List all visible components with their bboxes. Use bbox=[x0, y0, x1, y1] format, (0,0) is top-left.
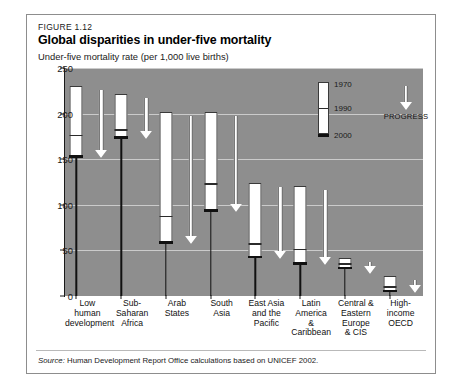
progress-label: PROGRESS bbox=[378, 112, 434, 121]
progress-arrow-shaft bbox=[278, 187, 282, 251]
progress-arrow-icon bbox=[184, 116, 198, 244]
marker-2000 bbox=[248, 256, 262, 259]
source-label: Source: bbox=[38, 356, 65, 365]
marker-1990 bbox=[338, 263, 351, 265]
figure-number: FIGURE 1.12 bbox=[38, 22, 92, 32]
range-bar-1970-2000 bbox=[383, 276, 396, 291]
x-tick-mark bbox=[76, 295, 77, 299]
bar-group bbox=[110, 68, 155, 296]
x-category-label: Central &EasternEurope& CIS bbox=[334, 299, 379, 338]
progress-arrow-icon bbox=[139, 98, 153, 140]
y-tick-mark-200 bbox=[60, 113, 65, 114]
marker-2000 bbox=[293, 262, 307, 265]
figure-card: FIGURE 1.12 Global disparities in under-… bbox=[26, 14, 436, 374]
range-bar-1970-2000 bbox=[204, 112, 217, 210]
marker-1990 bbox=[294, 249, 307, 251]
y-tick-label-100: 100 bbox=[33, 199, 73, 210]
x-tick-mark bbox=[344, 295, 345, 299]
x-category-label: Lowhumandevelopment bbox=[65, 299, 110, 328]
progress-arrow-head bbox=[319, 257, 331, 265]
x-category-label: East Asiaand thePacific bbox=[244, 299, 289, 328]
x-tick-mark bbox=[300, 295, 301, 299]
marker-1990 bbox=[249, 243, 262, 245]
bar-stem bbox=[210, 210, 211, 296]
bar-stem bbox=[120, 137, 121, 296]
progress-arrow-icon bbox=[94, 90, 108, 158]
range-bar-1970-2000 bbox=[70, 86, 83, 156]
legend-range-bar bbox=[318, 82, 329, 134]
bar-stem bbox=[299, 263, 300, 296]
y-tick-mark-100 bbox=[60, 204, 65, 205]
x-category-label: Sub-SaharanAfrica bbox=[110, 299, 155, 328]
bar-group bbox=[199, 68, 244, 296]
range-bar-1970-2000 bbox=[115, 94, 128, 138]
legend-label-2000: 2000 bbox=[334, 131, 352, 140]
marker-2000 bbox=[204, 209, 218, 212]
progress-arrow-head bbox=[140, 131, 152, 139]
source-divider bbox=[36, 350, 426, 351]
x-category-line: Asia bbox=[199, 309, 244, 319]
bar-stem bbox=[344, 268, 345, 296]
x-category-line: development bbox=[65, 319, 110, 329]
x-tick-mark bbox=[121, 295, 122, 299]
source-note: Source: Human Development Report Office … bbox=[38, 356, 318, 365]
marker-1990 bbox=[70, 135, 83, 137]
progress-arrow-icon bbox=[399, 86, 413, 110]
x-category-line: & CIS bbox=[334, 328, 379, 338]
progress-arrow-icon bbox=[273, 187, 287, 259]
marker-1990 bbox=[115, 129, 128, 131]
progress-arrow-shaft bbox=[99, 90, 103, 150]
progress-arrow-icon bbox=[318, 190, 332, 266]
y-tick-label-250: 250 bbox=[33, 63, 73, 74]
marker-2000 bbox=[383, 290, 397, 293]
x-category-line: Africa bbox=[110, 319, 155, 329]
bar-group bbox=[155, 68, 200, 296]
x-tick-mark bbox=[389, 295, 390, 299]
legend-2000-cap bbox=[318, 134, 329, 137]
y-tick-mark-250 bbox=[60, 68, 65, 69]
x-category-label: LatinAmerica& Caribbean bbox=[289, 299, 334, 338]
legend-label-1990: 1990 bbox=[334, 104, 352, 113]
progress-arrow-head bbox=[185, 236, 197, 244]
x-category-line: OECD bbox=[378, 319, 423, 329]
y-tick-mark-50 bbox=[60, 250, 65, 251]
progress-arrow-shaft bbox=[404, 86, 408, 102]
bar-stem bbox=[255, 257, 256, 296]
y-axis-title: Under-five mortality rate (per 1,000 liv… bbox=[38, 51, 229, 62]
progress-arrow-head bbox=[409, 285, 421, 293]
range-bar-1970-2000 bbox=[159, 112, 172, 242]
progress-arrow-head bbox=[95, 150, 107, 158]
range-bar-1970-2000 bbox=[249, 183, 262, 257]
progress-arrow-head bbox=[274, 251, 286, 259]
progress-legend: PROGRESS bbox=[378, 86, 434, 121]
range-bar-1970-2000 bbox=[294, 186, 307, 264]
marker-2000 bbox=[159, 241, 173, 244]
progress-arrow-shaft bbox=[323, 190, 327, 258]
legend: 1970 1990 2000 bbox=[318, 82, 364, 140]
progress-arrow-head bbox=[230, 204, 242, 212]
x-category-label: High-incomeOECD bbox=[378, 299, 423, 328]
legend-label-1970: 1970 bbox=[334, 80, 352, 89]
progress-arrow-shaft bbox=[233, 116, 237, 204]
x-category-line: & Caribbean bbox=[289, 319, 334, 339]
progress-arrow-shaft bbox=[144, 98, 148, 132]
marker-1990 bbox=[383, 286, 396, 288]
plot-wrapper: 1970 1990 2000 PROGRESS bbox=[65, 68, 423, 296]
y-tick-mark-0 bbox=[60, 296, 65, 297]
progress-arrow-head bbox=[364, 266, 376, 274]
y-tick-mark-150 bbox=[60, 159, 65, 160]
x-tick-mark bbox=[255, 295, 256, 299]
source-text: Human Development Report Office calculat… bbox=[65, 356, 318, 365]
progress-arrow-shaft bbox=[189, 116, 193, 236]
y-tick-label-150: 150 bbox=[33, 154, 73, 165]
x-category-line: Pacific bbox=[244, 319, 289, 329]
marker-1990 bbox=[204, 183, 217, 185]
progress-arrow-head bbox=[400, 102, 412, 110]
progress-arrow-icon bbox=[408, 280, 422, 293]
y-tick-label-200: 200 bbox=[33, 108, 73, 119]
x-category-line: States bbox=[155, 309, 200, 319]
marker-2000 bbox=[338, 267, 352, 270]
marker-2000 bbox=[114, 136, 128, 139]
figure-title: Global disparities in under-five mortali… bbox=[38, 33, 271, 47]
x-tick-mark bbox=[210, 295, 211, 299]
